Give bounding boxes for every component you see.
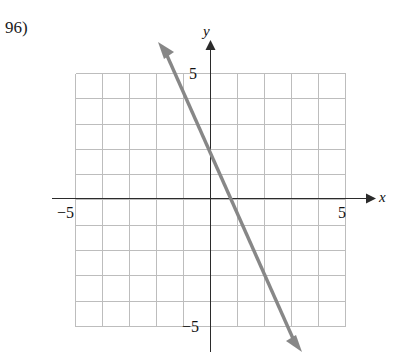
worksheet-page: 96) xyxy=(0,0,403,359)
plotted-line xyxy=(158,42,302,352)
y-axis-label: y xyxy=(201,23,210,39)
x-axis-label: x xyxy=(378,189,386,205)
y-axis-arrow xyxy=(206,40,216,50)
x-axis-arrow xyxy=(366,194,376,204)
x-axis-tick-label-five: 5 xyxy=(338,204,346,221)
line-arrow-lower xyxy=(286,335,302,352)
line-arrow-upper xyxy=(158,42,174,59)
coordinate-graph-figure: x y −5 5 5 −5 xyxy=(0,0,403,359)
x-axis-tick-label-negative-five: −5 xyxy=(57,204,74,221)
y-axis-tick-label-negative-five: −5 xyxy=(182,318,199,335)
y-axis xyxy=(206,40,216,352)
y-axis-tick-label-five: 5 xyxy=(189,65,197,82)
x-axis xyxy=(52,194,376,204)
